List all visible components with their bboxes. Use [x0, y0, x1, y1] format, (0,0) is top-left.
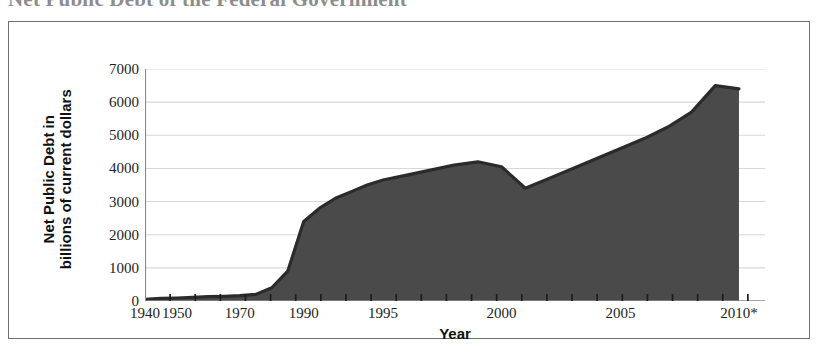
x-axis-tick-label: 1940 — [130, 305, 160, 322]
x-axis-tick-label: 1995 — [368, 305, 398, 322]
x-axis-title: Year — [145, 325, 765, 342]
y-axis-tick-labels: 01000200030004000500060007000 — [81, 69, 139, 301]
y-axis-tick-label: 1000 — [87, 259, 139, 276]
y-axis-tick-label: 5000 — [87, 127, 139, 144]
area-chart-svg — [145, 69, 765, 301]
plot-area — [145, 69, 765, 301]
y-axis-title-line2: billions of current dollars — [57, 64, 74, 294]
y-axis-title-line1: Net Public Debt in — [40, 64, 57, 294]
y-axis-tick-label: 4000 — [87, 160, 139, 177]
x-axis-tick-labels: 19401950197019901995200020052010* — [145, 305, 785, 327]
y-axis-title: Net Public Debt in billions of current d… — [40, 64, 75, 294]
debt-area-fill — [145, 86, 739, 301]
x-axis-tick-label: 2000 — [487, 305, 517, 322]
x-axis-tick-label: 2010* — [720, 305, 758, 322]
y-axis-tick-label: 2000 — [87, 226, 139, 243]
y-axis-tick-label: 7000 — [87, 61, 139, 78]
x-axis-tick-label: 1950 — [162, 305, 192, 322]
x-axis-tick-label: 1990 — [289, 305, 319, 322]
figure-frame: Net Public Debt in billions of current d… — [8, 21, 810, 339]
y-axis-tick-label: 6000 — [87, 94, 139, 111]
y-axis-tick-label: 3000 — [87, 193, 139, 210]
x-axis-tick-label: 2005 — [606, 305, 636, 322]
x-axis-tick-label: 1970 — [225, 305, 255, 322]
chart-title: Net Public Debt of the Federal Governmen… — [8, 0, 708, 9]
